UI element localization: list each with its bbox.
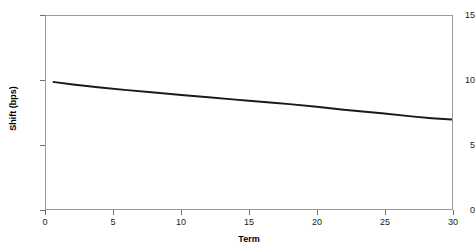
x-axis-title: Term bbox=[45, 234, 453, 245]
xtick-mark-20 bbox=[317, 210, 318, 215]
xtick-mark-30 bbox=[453, 210, 454, 215]
xtick-label-20: 20 bbox=[297, 217, 337, 227]
xtick-label-30: 30 bbox=[433, 217, 473, 227]
xtick-mark-5 bbox=[113, 210, 114, 215]
y-axis-title: Shift (bps) bbox=[8, 64, 19, 154]
plot-area bbox=[45, 15, 453, 210]
xtick-mark-15 bbox=[249, 210, 250, 215]
y-axis-title-wrap: Shift (bps) bbox=[0, 0, 30, 225]
xtick-mark-0 bbox=[45, 210, 46, 215]
data-series-line bbox=[53, 82, 452, 120]
chart-line-svg bbox=[46, 16, 452, 209]
xtick-label-25: 25 bbox=[365, 217, 405, 227]
xtick-label-15: 15 bbox=[229, 217, 269, 227]
xtick-label-0: 0 bbox=[25, 217, 65, 227]
xtick-mark-25 bbox=[385, 210, 386, 215]
chart-screenshot: 15 10 5 0 0 5 10 15 20 25 30 Term Shift … bbox=[0, 0, 475, 252]
xtick-mark-10 bbox=[181, 210, 182, 215]
xtick-label-10: 10 bbox=[161, 217, 201, 227]
xtick-label-5: 5 bbox=[93, 217, 133, 227]
